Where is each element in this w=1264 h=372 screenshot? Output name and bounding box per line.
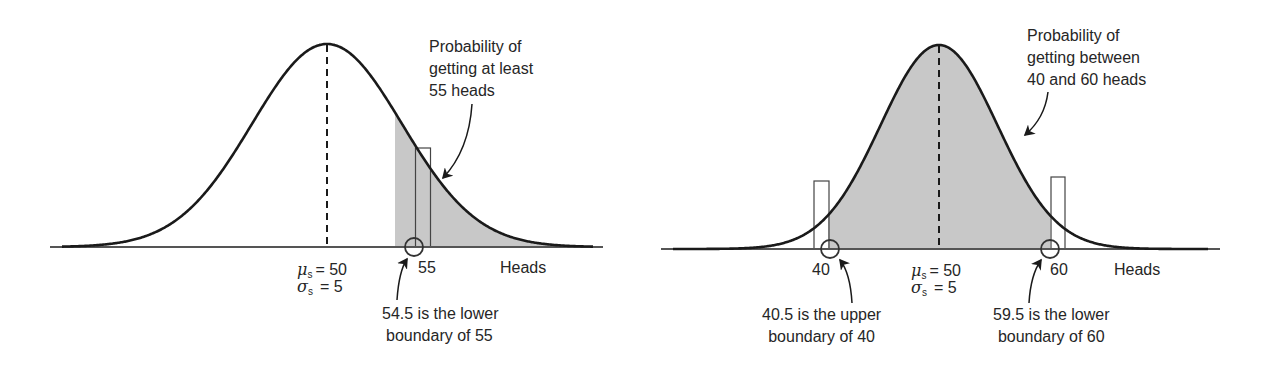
left-callout-line-1: Probability of	[429, 36, 533, 58]
right-callout-line-3: 40 and 60 heads	[1027, 69, 1146, 91]
left-boundary-note-line-2: boundary of 55	[386, 325, 499, 347]
right-tick-60: 60	[1050, 259, 1068, 281]
right-low-note-line-1: 40.5 is the upper	[762, 304, 881, 326]
left-shaded-area	[395, 112, 593, 247]
sigma-symbol: σ	[911, 278, 922, 297]
sigma-symbol: σ	[297, 277, 308, 296]
right-callout-text: Probability of getting between 40 and 60…	[1027, 25, 1146, 91]
left-callout-line-2: getting at least	[429, 58, 533, 80]
right-low-boundary-arrow	[840, 260, 852, 303]
right-callout-line-2: getting between	[1027, 47, 1146, 69]
right-callout-arrow	[1025, 92, 1048, 135]
sd-value: = 5	[320, 278, 343, 295]
right-high-boundary-arrow	[1029, 260, 1041, 303]
right-axis-label: Heads	[1114, 259, 1160, 281]
left-callout-text: Probability of getting at least 55 heads	[429, 36, 533, 102]
mean-value: = 50	[315, 261, 347, 278]
left-boundary-note: 54.5 is the lower boundary of 55	[382, 303, 499, 347]
left-axis-label: Heads	[500, 257, 546, 279]
sd-value: = 5	[934, 279, 957, 296]
left-tick-55: 55	[418, 257, 436, 279]
left-boundary-note-line-1: 54.5 is the lower	[382, 303, 499, 325]
right-bar-60	[1051, 177, 1065, 249]
right-callout-line-1: Probability of	[1027, 25, 1146, 47]
left-boundary-arrow	[397, 259, 407, 300]
right-low-note: 40.5 is the upper boundary of 40	[762, 304, 881, 348]
left-callout-line-3: 55 heads	[429, 80, 533, 102]
right-sd-label: σs= 5	[911, 279, 957, 301]
right-low-note-line-2: boundary of 40	[762, 326, 881, 348]
left-sd-label: σs= 5	[297, 278, 343, 300]
right-high-note: 59.5 is the lower boundary of 60	[993, 304, 1110, 348]
sigma-subscript: s	[922, 287, 927, 298]
left-callout-arrow	[443, 104, 472, 178]
mean-value: = 50	[929, 262, 961, 279]
right-tick-40: 40	[812, 259, 830, 281]
sigma-subscript: s	[308, 286, 313, 297]
right-high-note-line-1: 59.5 is the lower	[993, 304, 1110, 326]
right-high-note-line-2: boundary of 60	[993, 326, 1110, 348]
